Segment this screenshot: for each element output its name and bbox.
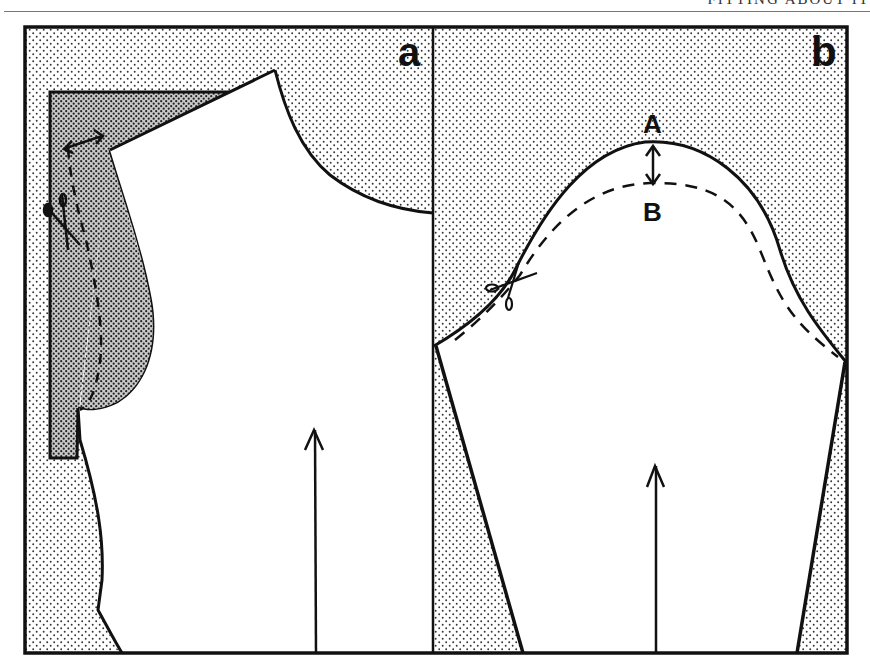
- point-A-label: A: [643, 109, 662, 139]
- point-B-label: B: [643, 197, 662, 227]
- panel-a-label: a: [398, 30, 421, 74]
- pattern-figure: a A B b: [0, 0, 870, 663]
- panel-b: A B b: [433, 27, 847, 653]
- panel-a: a: [25, 27, 433, 653]
- panel-b-label: b: [811, 28, 837, 75]
